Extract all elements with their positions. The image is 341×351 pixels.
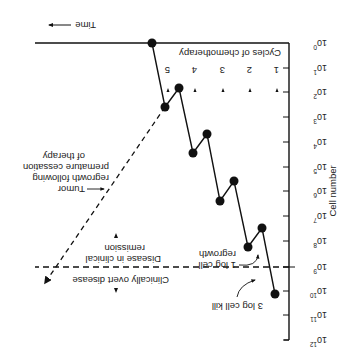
annotation-remission: Disease in clinical remission bbox=[85, 233, 161, 265]
y-axis-label: Cell number bbox=[327, 165, 338, 216]
annotation-tumor-regrowth: Tumor regrowth following premature cessa… bbox=[23, 151, 109, 195]
svg-text:3: 3 bbox=[313, 118, 317, 125]
svg-text:1 log cell: 1 log cell bbox=[199, 260, 237, 271]
svg-text:10: 10 bbox=[317, 262, 327, 272]
svg-text:10: 10 bbox=[317, 63, 327, 73]
svg-text:10: 10 bbox=[317, 137, 327, 147]
svg-text:Clinically overt disease: Clinically overt disease bbox=[72, 275, 169, 286]
svg-text:3: 3 bbox=[220, 65, 225, 76]
svg-text:10: 10 bbox=[317, 286, 327, 296]
svg-text:Time: Time bbox=[75, 20, 96, 31]
svg-text:1: 1 bbox=[274, 65, 279, 76]
svg-text:8: 8 bbox=[313, 242, 317, 249]
svg-text:12: 12 bbox=[309, 341, 317, 348]
cycles-label: Cycles of chemotherapy bbox=[179, 48, 281, 59]
svg-text:regrowth: regrowth bbox=[199, 249, 236, 260]
svg-text:5: 5 bbox=[165, 65, 170, 76]
annotation-1-log-regrowth: 1 log cell regrowth bbox=[199, 249, 259, 271]
svg-text:9: 9 bbox=[313, 268, 317, 275]
svg-text:4: 4 bbox=[192, 65, 197, 76]
svg-text:11: 11 bbox=[310, 316, 317, 323]
svg-text:10: 10 bbox=[317, 211, 327, 221]
annotation-overt-disease: Clinically overt disease bbox=[72, 275, 169, 293]
svg-text:Tumor: Tumor bbox=[58, 184, 85, 195]
annotation-3-log-kill: 3 log cell kill bbox=[212, 280, 263, 312]
svg-text:regrowth following: regrowth following bbox=[32, 173, 109, 184]
cycle-numbers: 1 2 3 4 5 bbox=[165, 65, 279, 76]
svg-text:10: 10 bbox=[317, 162, 327, 172]
tick-1e0: 100 bbox=[313, 38, 327, 51]
svg-text:premature cessation: premature cessation bbox=[23, 162, 109, 173]
svg-text:10: 10 bbox=[317, 38, 327, 48]
svg-text:6: 6 bbox=[313, 192, 317, 199]
svg-text:5: 5 bbox=[313, 168, 317, 175]
svg-text:3 log cell kill: 3 log cell kill bbox=[212, 301, 263, 312]
svg-text:2: 2 bbox=[247, 65, 252, 76]
svg-text:10: 10 bbox=[317, 186, 327, 196]
svg-text:10: 10 bbox=[317, 310, 327, 320]
figure-stage: 1012 1011 1010 109 108 107 106 105 104 1… bbox=[0, 0, 341, 351]
svg-text:10: 10 bbox=[317, 236, 327, 246]
svg-text:Disease in clinical: Disease in clinical bbox=[85, 254, 161, 265]
svg-text:10: 10 bbox=[317, 87, 327, 97]
svg-text:4: 4 bbox=[313, 143, 317, 150]
svg-text:10: 10 bbox=[317, 112, 327, 122]
svg-text:2: 2 bbox=[313, 93, 317, 100]
svg-text:of therapy: of therapy bbox=[43, 151, 85, 162]
time-axis-label: Time bbox=[49, 20, 96, 31]
svg-text:7: 7 bbox=[313, 217, 317, 224]
svg-text:0: 0 bbox=[313, 44, 317, 51]
svg-text:remission: remission bbox=[104, 243, 145, 254]
svg-text:10: 10 bbox=[317, 335, 327, 345]
svg-text:1: 1 bbox=[313, 69, 317, 76]
svg-text:10: 10 bbox=[309, 292, 317, 299]
chemotherapy-log-kill-diagram: 1012 1011 1010 109 108 107 106 105 104 1… bbox=[0, 0, 341, 351]
